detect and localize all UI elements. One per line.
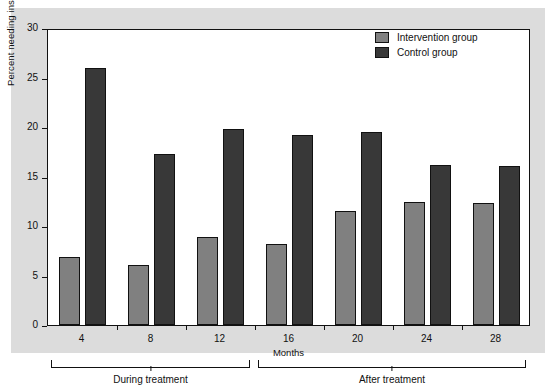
bar-intervention-month-16: [266, 244, 287, 325]
bar-control-month-4: [85, 68, 106, 325]
y-tick-label: 30: [27, 22, 38, 33]
x-tick-mark: [324, 325, 325, 330]
y-tick-30: 30: [11, 29, 47, 30]
bar-control-month-20: [361, 132, 382, 325]
x-tick-label-20: 20: [352, 333, 363, 344]
bar-intervention-month-28: [473, 203, 494, 325]
y-tick-mark: [42, 29, 47, 30]
bracket-label-after-treatment: After treatment: [359, 374, 425, 385]
y-tick-label: 25: [27, 72, 38, 83]
y-tick-mark: [42, 178, 47, 179]
y-tick-label: 10: [27, 220, 38, 231]
y-tick-label: 15: [27, 171, 38, 182]
y-tick-mark: [42, 79, 47, 80]
bracket-during-treatment: [51, 360, 250, 369]
bracket-label-during-treatment: During treatment: [113, 374, 187, 385]
bracket-rcap: [249, 360, 250, 368]
bracket-mid: [391, 366, 392, 371]
bar-control-month-8: [154, 154, 175, 325]
legend-swatch-intervention: [375, 32, 389, 43]
x-tick-mark: [117, 325, 118, 330]
figure-panel: Percent needing institutional care 05101…: [11, 8, 545, 353]
y-tick-label: 5: [32, 270, 38, 281]
bracket-lcap: [51, 360, 52, 368]
bar-intervention-month-4: [59, 257, 80, 325]
y-tick-25: 25: [11, 79, 47, 80]
bar-control-month-24: [430, 165, 451, 325]
y-tick-label: 0: [32, 319, 38, 330]
legend-label-control: Control group: [397, 47, 458, 58]
bracket-after-treatment: [258, 360, 526, 369]
y-tick-0: 0: [11, 326, 47, 327]
y-tick-15: 15: [11, 178, 47, 179]
x-tick-mark: [186, 325, 187, 330]
chart-legend: Intervention group Control group: [375, 30, 478, 60]
y-tick-10: 10: [11, 227, 47, 228]
y-tick-5: 5: [11, 277, 47, 278]
x-tick-label-16: 16: [283, 333, 294, 344]
y-tick-mark: [42, 227, 47, 228]
legend-item-control: Control group: [375, 45, 478, 60]
bar-intervention-month-20: [335, 211, 356, 325]
x-tick-mark: [255, 325, 256, 330]
legend-swatch-control: [375, 47, 389, 58]
x-tick-label-24: 24: [421, 333, 432, 344]
y-tick-mark: [42, 277, 47, 278]
bar-control-month-28: [499, 166, 520, 325]
plot-area: [47, 29, 530, 326]
y-tick-20: 20: [11, 128, 47, 129]
bar-control-month-16: [292, 135, 313, 325]
x-tick-label-4: 4: [79, 333, 85, 344]
y-axis-label: Percent needing institutional care: [5, 0, 16, 86]
bracket-rcap: [525, 360, 526, 368]
x-tick-label-28: 28: [490, 333, 501, 344]
x-tick-label-12: 12: [214, 333, 225, 344]
bracket-mid: [150, 366, 151, 371]
x-axis-title: Months: [273, 347, 304, 358]
bar-intervention-month-24: [404, 202, 425, 325]
bar-intervention-month-8: [128, 265, 149, 325]
bracket-lcap: [258, 360, 259, 368]
bar-intervention-month-12: [197, 237, 218, 325]
legend-label-intervention: Intervention group: [397, 32, 478, 43]
legend-item-intervention: Intervention group: [375, 30, 478, 45]
y-tick-mark: [42, 128, 47, 129]
x-tick-mark: [393, 325, 394, 330]
x-tick-label-8: 8: [148, 333, 154, 344]
y-tick-label: 20: [27, 121, 38, 132]
y-tick-mark: [42, 326, 47, 327]
bar-control-month-12: [223, 129, 244, 325]
x-tick-mark: [462, 325, 463, 330]
